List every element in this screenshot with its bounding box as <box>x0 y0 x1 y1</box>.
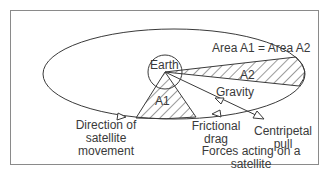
gravity-label: Gravity <box>216 86 254 99</box>
a1-label: A1 <box>155 95 170 108</box>
a2-label: A2 <box>240 69 255 82</box>
frictional-drag-label: Frictional drag <box>186 120 246 146</box>
area-equation-label: Area A1 = Area A2 <box>212 42 310 55</box>
direction-label: Direction of satellite movement <box>73 119 139 158</box>
frictional-drag-arrow-icon <box>212 110 221 117</box>
caption: Forces acting on a satellite <box>196 145 306 171</box>
earth-label: Earth <box>150 59 179 72</box>
centripetal-arrow-icon <box>253 111 264 119</box>
caption-line-2: satellite <box>196 158 306 171</box>
direction-line-3: movement <box>73 145 139 158</box>
